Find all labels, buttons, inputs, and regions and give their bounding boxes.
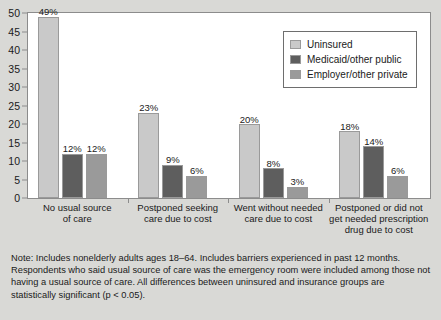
- bar: 9%: [162, 165, 183, 198]
- x-axis-category-label: Postponed seekingcare due to cost: [128, 202, 229, 224]
- legend-swatch-icon: [290, 40, 301, 49]
- bar-group-bars: 49%12%12%: [28, 13, 129, 198]
- legend-item-label: Uninsured: [307, 40, 353, 50]
- x-axis-category-line: care due to cost: [128, 213, 229, 224]
- y-axis-tick-label: 35: [8, 63, 20, 74]
- legend-item-label: Employer/other private: [307, 70, 408, 80]
- legend-item: Medicaid/other public: [290, 52, 408, 67]
- y-axis-tick-label: 20: [8, 119, 20, 130]
- bar: 20%: [239, 124, 260, 198]
- bar-group-bars: 23%9%6%: [129, 13, 230, 198]
- y-axis-tick-mark: [22, 50, 27, 51]
- y-axis-tick-mark: [22, 31, 27, 32]
- y-axis-tick-label: 5: [14, 174, 20, 185]
- y-axis-tick-mark: [22, 198, 27, 199]
- bar: 14%: [363, 146, 384, 198]
- bar: 23%: [138, 113, 159, 198]
- y-axis-tick-mark: [22, 161, 27, 162]
- y-axis-tick-mark: [22, 13, 27, 14]
- chart-legend: UninsuredMedicaid/other publicEmployer/o…: [283, 31, 417, 88]
- bar: 12%: [62, 154, 83, 198]
- y-axis-tick-label: 45: [8, 26, 20, 37]
- y-axis-tick-label: 50: [8, 8, 20, 19]
- legend-item-label: Medicaid/other public: [307, 55, 402, 65]
- bar: 3%: [287, 187, 308, 198]
- y-axis-tick-mark: [22, 105, 27, 106]
- y-axis-tick-label: 15: [8, 137, 20, 148]
- bar-value-label: 12%: [63, 144, 82, 154]
- y-axis-tick-mark: [22, 179, 27, 180]
- y-axis-tick-label: 40: [8, 45, 20, 56]
- x-axis-category-line: care due to cost: [228, 213, 329, 224]
- x-axis-category-line: of care: [27, 213, 128, 224]
- bar: 8%: [263, 168, 284, 198]
- bar-value-label: 6%: [190, 166, 204, 176]
- x-axis-category-label: Postponed or did notget needed prescript…: [329, 202, 430, 235]
- bar: 49%: [38, 17, 59, 198]
- legend-swatch-icon: [290, 70, 301, 79]
- bar-value-label: 8%: [266, 159, 280, 169]
- x-axis-category-line: get needed prescription: [329, 213, 430, 224]
- y-axis-tick-label: 10: [8, 156, 20, 167]
- bar-value-label: 9%: [166, 155, 180, 165]
- bar-value-label: 23%: [139, 103, 158, 113]
- x-axis-separator: [128, 198, 129, 203]
- x-axis-separator: [329, 198, 330, 203]
- chart-figure: 49%12%12%23%9%6%20%8%3%18%14%6% 05101520…: [0, 0, 441, 320]
- x-axis-category-line: Postponed seeking: [128, 202, 229, 213]
- x-axis-category-line: Postponed or did not: [329, 202, 430, 213]
- chart-note: Note: Includes nonelderly adults ages 18…: [11, 252, 431, 301]
- bar-value-label: 14%: [364, 137, 383, 147]
- y-axis: 05101520253035404550: [0, 12, 25, 199]
- bar: 6%: [186, 176, 207, 198]
- legend-swatch-icon: [290, 55, 301, 64]
- bar: 12%: [86, 154, 107, 198]
- x-axis-separator: [228, 198, 229, 203]
- bar: 6%: [387, 176, 408, 198]
- y-axis-tick-label: 0: [14, 193, 20, 204]
- bar: 18%: [339, 131, 360, 198]
- bar-value-label: 12%: [87, 144, 106, 154]
- y-axis-tick-mark: [22, 124, 27, 125]
- legend-item: Employer/other private: [290, 67, 408, 82]
- bar-value-label: 6%: [391, 166, 405, 176]
- legend-item: Uninsured: [290, 37, 408, 52]
- bar-group: 49%12%12%: [28, 13, 129, 198]
- bar-value-label: 3%: [290, 177, 304, 187]
- y-axis-tick-mark: [22, 142, 27, 143]
- bar-value-label: 18%: [340, 122, 359, 132]
- y-axis-tick-label: 30: [8, 82, 20, 93]
- x-axis-category-line: Went without needed: [228, 202, 329, 213]
- x-axis-category-label: Went without neededcare due to cost: [228, 202, 329, 224]
- x-axis-category-line: No usual source: [27, 202, 128, 213]
- y-axis-tick-mark: [22, 87, 27, 88]
- y-axis-tick-label: 25: [8, 100, 20, 111]
- x-axis-category-line: drug due to cost: [329, 224, 430, 235]
- bar-group: 23%9%6%: [129, 13, 230, 198]
- bar-value-label: 20%: [240, 115, 259, 125]
- y-axis-tick-mark: [22, 68, 27, 69]
- bar-value-label: 49%: [39, 7, 58, 17]
- x-axis-category-label: No usual sourceof care: [27, 202, 128, 224]
- x-axis: No usual sourceof carePostponed seekingc…: [27, 202, 431, 242]
